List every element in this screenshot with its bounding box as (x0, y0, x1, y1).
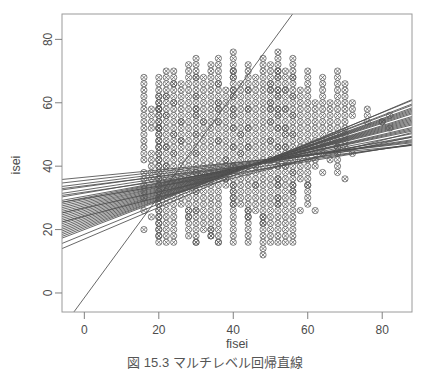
x-axis-title: fisei (226, 337, 248, 351)
y-tick-label: 80 (41, 32, 55, 46)
y-tick-label: 0 (41, 289, 55, 296)
scatter-plot: 020406080 020406080 fisei isei (0, 0, 430, 372)
x-tick-label: 40 (227, 323, 241, 337)
x-tick-label: 20 (152, 323, 166, 337)
x-tick-label: 60 (301, 323, 315, 337)
figure-caption: 図 15.3 マルチレベル回帰直線 (0, 352, 430, 371)
y-axis-title: isei (9, 156, 23, 175)
x-tick-label: 80 (376, 323, 390, 337)
y-tick-label: 60 (41, 96, 55, 110)
y-tick-label: 40 (41, 159, 55, 173)
y-tick-label: 20 (41, 223, 55, 237)
x-tick-label: 0 (81, 323, 88, 337)
figure-container: 020406080 020406080 fisei isei 図 15.3 マル… (0, 0, 430, 372)
